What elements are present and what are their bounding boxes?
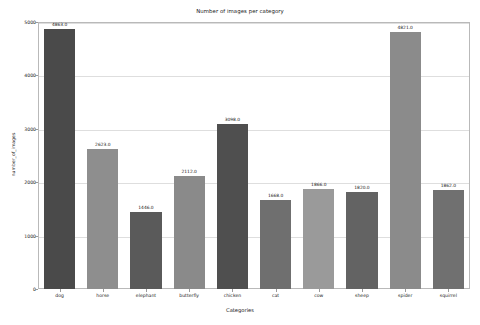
bar[interactable] [346, 192, 377, 289]
bar-value-label: 2112.0 [168, 169, 211, 174]
x-tick-mark [276, 289, 277, 292]
x-tick-mark [405, 289, 406, 292]
bar-group: 1866.0 [297, 22, 340, 289]
x-tick-label: dog [38, 293, 81, 298]
bar-value-label: 1820.0 [340, 185, 383, 190]
x-tick-mark [60, 289, 61, 292]
x-tick-label: horse [81, 293, 124, 298]
bar-group: 1862.0 [427, 22, 470, 289]
y-tick-label: 5000 [2, 20, 36, 25]
bar-value-label: 4863.0 [38, 22, 81, 27]
bar[interactable] [433, 190, 464, 289]
bar-group: 4821.0 [384, 22, 427, 289]
x-axis-label: Categories [0, 307, 480, 313]
x-tick-label: spider [384, 293, 427, 298]
x-tick-label: sheep [340, 293, 383, 298]
bar[interactable] [87, 149, 118, 289]
y-tick-label: 1000 [2, 233, 36, 238]
bar-group: 1820.0 [340, 22, 383, 289]
y-tick-label: 3000 [2, 126, 36, 131]
x-tick-mark [103, 289, 104, 292]
bar-group: 3098.0 [211, 22, 254, 289]
y-tick-label: 4000 [2, 73, 36, 78]
bar[interactable] [390, 32, 421, 289]
bar-value-label: 3098.0 [211, 117, 254, 122]
bar[interactable] [174, 176, 205, 289]
bar-value-label: 2623.0 [81, 142, 124, 147]
x-tick-mark [232, 289, 233, 292]
y-tick-mark [35, 289, 38, 290]
bar-group: 1668.0 [254, 22, 297, 289]
bar[interactable] [130, 212, 161, 289]
x-tick-mark [319, 289, 320, 292]
bar[interactable] [303, 189, 334, 289]
bar-group: 2623.0 [81, 22, 124, 289]
bar-value-label: 1446.0 [124, 205, 167, 210]
y-tick-label: 0 [2, 287, 36, 292]
x-tick-label: cow [297, 293, 340, 298]
x-tick-label: cat [254, 293, 297, 298]
x-tick-label: squirrel [427, 293, 470, 298]
x-tick-mark [362, 289, 363, 292]
x-tick-label: chicken [211, 293, 254, 298]
x-tick-mark [448, 289, 449, 292]
chart-title: Number of images per category [0, 8, 480, 14]
x-tick-label: elephant [124, 293, 167, 298]
bar-group: 1446.0 [124, 22, 167, 289]
bar-value-label: 1862.0 [427, 183, 470, 188]
x-tick-mark [146, 289, 147, 292]
x-tick-label: butterfly [168, 293, 211, 298]
bar[interactable] [44, 29, 75, 289]
bar-series: 4863.02623.01446.02112.03098.01668.01866… [38, 22, 470, 289]
chart-figure: Number of images per category number_of_… [0, 0, 480, 325]
bar-value-label: 4821.0 [384, 25, 427, 30]
x-tick-mark [189, 289, 190, 292]
bar-value-label: 1668.0 [254, 193, 297, 198]
bar[interactable] [217, 124, 248, 289]
y-tick-label: 2000 [2, 180, 36, 185]
bar-group: 4863.0 [38, 22, 81, 289]
bar-group: 2112.0 [168, 22, 211, 289]
bar-value-label: 1866.0 [297, 182, 340, 187]
bar[interactable] [260, 200, 291, 289]
